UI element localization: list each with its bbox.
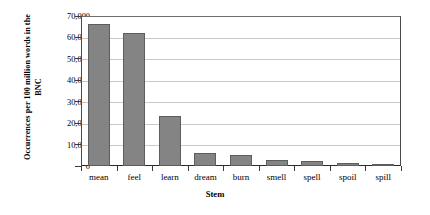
x-axis-tick-label: spill xyxy=(354,172,412,182)
x-axis-tick-mark xyxy=(294,166,295,171)
bar-slot[interactable] xyxy=(188,16,224,166)
bar-slot[interactable] xyxy=(330,16,366,166)
bar-slot[interactable] xyxy=(117,16,153,166)
bar[interactable] xyxy=(88,24,110,167)
bar[interactable] xyxy=(337,163,359,166)
bar-slot[interactable] xyxy=(81,16,117,166)
x-axis-tick-mark xyxy=(152,166,153,171)
bar-chart: Occurrences per 100 million words in the… xyxy=(0,0,430,215)
bar-series xyxy=(81,16,401,166)
x-axis-tick-mark xyxy=(188,166,189,171)
x-axis-tick-mark xyxy=(401,166,402,171)
x-axis-tick-mark xyxy=(259,166,260,171)
bar-slot[interactable] xyxy=(294,16,330,166)
bar[interactable] xyxy=(194,153,216,166)
x-axis-tick-mark xyxy=(81,166,82,171)
bar[interactable] xyxy=(372,164,394,167)
bar-slot[interactable] xyxy=(152,16,188,166)
x-axis-tick-mark xyxy=(223,166,224,171)
bar[interactable] xyxy=(123,33,145,166)
x-axis-tick-mark xyxy=(330,166,331,171)
bar[interactable] xyxy=(301,161,323,166)
bar-slot[interactable] xyxy=(365,16,401,166)
bar[interactable] xyxy=(159,116,181,166)
x-axis-tick-mark xyxy=(117,166,118,171)
bar[interactable] xyxy=(266,160,288,166)
bar[interactable] xyxy=(230,155,252,166)
bar-slot[interactable] xyxy=(259,16,295,166)
bar-slot[interactable] xyxy=(223,16,259,166)
x-axis-title: Stem xyxy=(0,189,430,199)
x-axis-tick-mark xyxy=(365,166,366,171)
